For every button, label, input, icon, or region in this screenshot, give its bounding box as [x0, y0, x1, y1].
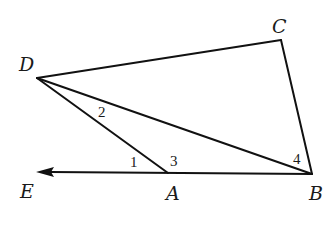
point-label-B: B: [308, 182, 323, 204]
diagram-svg: D C E A B 1 2 3 4: [0, 0, 329, 225]
ray-BE: [50, 172, 312, 174]
point-label-C: C: [272, 15, 287, 37]
point-label-E: E: [19, 180, 34, 202]
point-label-D: D: [18, 53, 34, 75]
angle-label-3: 3: [170, 153, 178, 169]
angle-label-2: 2: [98, 104, 106, 120]
angle-label-4: 4: [293, 151, 301, 167]
point-label-A: A: [164, 182, 180, 204]
angle-label-1: 1: [130, 154, 138, 170]
geometry-diagram: D C E A B 1 2 3 4: [0, 0, 329, 225]
segment-DC: [37, 40, 281, 78]
segment-DA: [37, 78, 168, 173]
